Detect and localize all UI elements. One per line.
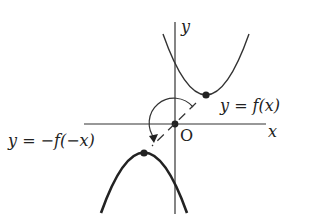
x-axis-label: x <box>268 122 277 141</box>
curve-f-label: y = f(x) <box>220 96 280 115</box>
arrow-head-icon <box>149 134 158 143</box>
curve-f <box>163 34 249 95</box>
curve-g-label: y = −f(−x) <box>8 131 95 150</box>
curve-neg-f-neg <box>101 153 187 214</box>
origin-label: O <box>180 126 193 145</box>
vertex-point-f <box>202 91 209 98</box>
vertex-point-g <box>140 149 147 156</box>
y-axis-label: y <box>181 17 190 36</box>
